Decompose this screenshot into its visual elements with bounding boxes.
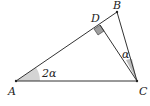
label-a: A [7, 85, 16, 98]
label-b: B [112, 0, 121, 12]
vertex-a [15, 80, 17, 82]
vertex-c [136, 80, 138, 82]
label-d: D [90, 12, 100, 25]
segment-cd [100, 25, 137, 81]
angle-a-label: 2α [41, 67, 57, 80]
angle-c-label: α [122, 48, 130, 61]
diagram-canvas: A B C D 2α α [0, 0, 150, 106]
segment-ab [16, 12, 117, 81]
label-c: C [139, 85, 148, 98]
triangle-diagram: A B C D 2α α [0, 0, 150, 106]
segment-bc [117, 12, 137, 81]
